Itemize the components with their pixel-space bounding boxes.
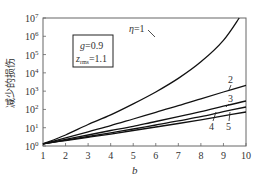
y-tick-label: 107 xyxy=(25,12,39,24)
y-axis-label: 减少的损伤 xyxy=(4,58,16,108)
x-tick-label: 10 xyxy=(241,150,251,161)
x-tick-label: 7 xyxy=(176,150,181,161)
series3-label: 3 xyxy=(228,93,233,104)
x-tick-label: 4 xyxy=(108,150,113,161)
y-tick-label: 100 xyxy=(25,140,39,152)
x-tick-label: 2 xyxy=(63,150,68,161)
chart: 12345678910100101102103104105106107 g=0.… xyxy=(0,0,263,181)
series-line-3 xyxy=(43,101,246,144)
series5-leader xyxy=(229,112,230,121)
chart-svg: 12345678910100101102103104105106107 g=0.… xyxy=(0,0,263,181)
x-tick-label: 6 xyxy=(153,150,158,161)
y-tick-label: 106 xyxy=(25,30,39,42)
eta1-label: η=1 xyxy=(129,23,145,34)
axes: 12345678910100101102103104105106107 xyxy=(25,12,251,161)
box-g-label: g=0.9 xyxy=(80,40,103,51)
series4-label: 4 xyxy=(209,121,214,132)
y-tick-label: 101 xyxy=(25,122,39,134)
series-line-5 xyxy=(43,112,246,144)
x-axis-label: b xyxy=(132,164,138,176)
series2-label: 2 xyxy=(228,74,233,85)
x-tick-label: 1 xyxy=(41,150,46,161)
series5-label: 5 xyxy=(226,121,231,132)
y-tick-label: 104 xyxy=(25,67,39,79)
x-tick-label: 3 xyxy=(86,150,91,161)
y-tick-label: 102 xyxy=(25,103,39,115)
eta1-leader xyxy=(148,30,155,37)
y-tick-label: 105 xyxy=(25,49,39,61)
box-z-label: zrms=1.1 xyxy=(75,53,107,65)
x-tick-label: 5 xyxy=(131,150,136,161)
x-tick-label: 8 xyxy=(198,150,203,161)
x-tick-label: 9 xyxy=(221,150,226,161)
y-tick-label: 103 xyxy=(25,85,39,97)
